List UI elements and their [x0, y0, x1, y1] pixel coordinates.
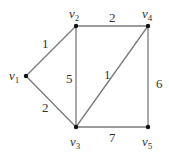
vertex-label-v4: v4: [142, 6, 153, 23]
edge-weight-v2-v4: 2: [109, 10, 116, 25]
vertex-labels-group: v1v2v3v4v5: [9, 6, 153, 151]
edge-v1-v2: [26, 26, 76, 76]
vertex-label-v3: v3: [70, 134, 81, 151]
vertex-label-v2: v2: [69, 6, 79, 23]
vertex-v3: [74, 125, 78, 129]
vertex-v1: [24, 74, 28, 78]
edge-v3-v4: [76, 26, 148, 127]
vertex-label-v5: v5: [142, 134, 153, 151]
vertex-v4: [146, 24, 150, 28]
graph-diagram: 1252167 v1v2v3v4v5: [0, 0, 169, 156]
edge-weight-v4-v5: 6: [156, 76, 163, 91]
edge-weight-v1-v2: 1: [42, 36, 49, 51]
edge-weight-v1-v3: 2: [42, 100, 49, 115]
vertex-label-v1: v1: [9, 68, 19, 85]
vertex-v5: [146, 125, 150, 129]
edge-weight-v3-v5: 7: [109, 130, 116, 145]
edge-weight-v2-v3: 5: [66, 71, 73, 86]
vertex-v2: [74, 24, 78, 28]
edge-weight-v3-v4: 1: [104, 67, 111, 82]
